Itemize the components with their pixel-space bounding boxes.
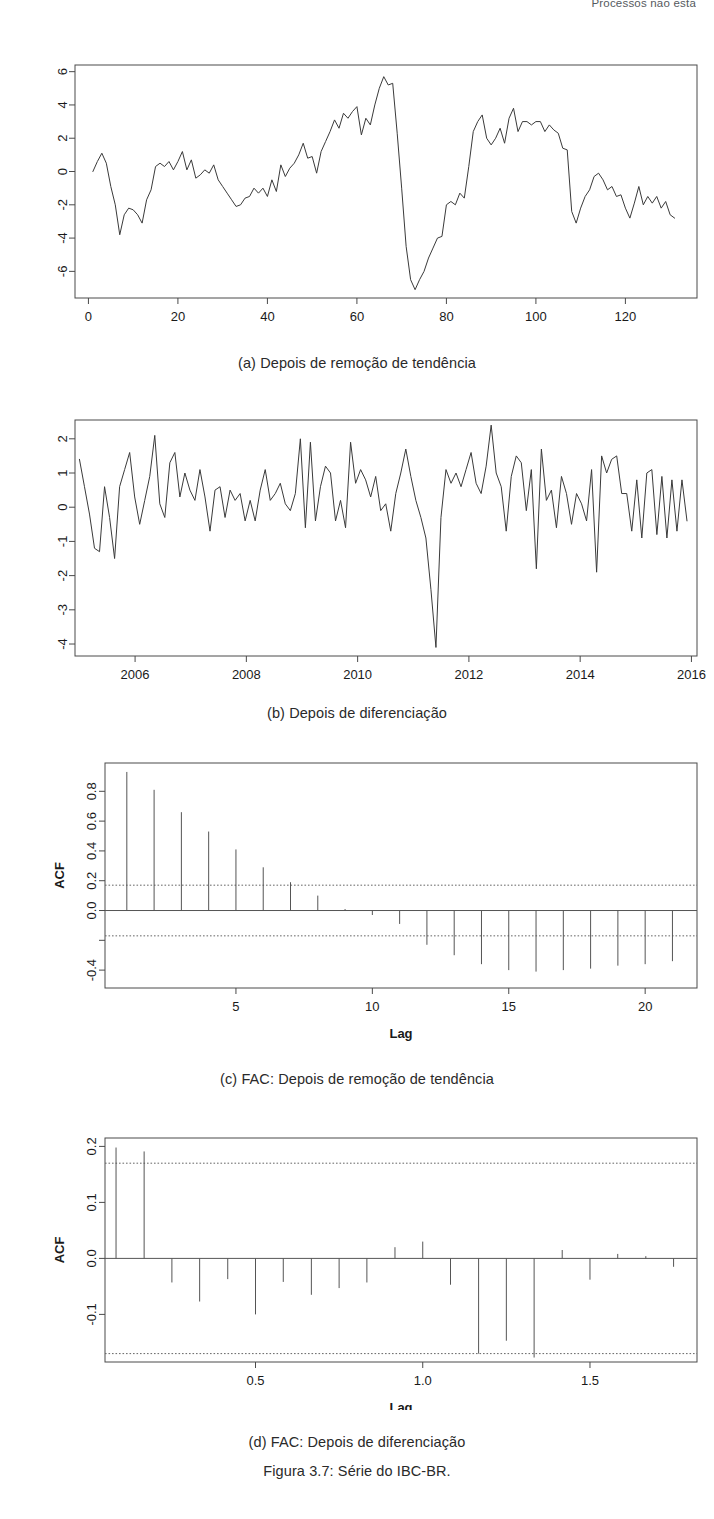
svg-text:80: 80 bbox=[439, 309, 453, 324]
svg-text:0.5: 0.5 bbox=[246, 1373, 264, 1388]
svg-text:0.1: 0.1 bbox=[85, 1193, 100, 1211]
panel-d-caption: (d) FAC: Depois de diferenciação bbox=[0, 1434, 714, 1450]
svg-text:2: 2 bbox=[56, 435, 71, 442]
svg-text:Lag: Lag bbox=[389, 1400, 412, 1410]
svg-text:0.8: 0.8 bbox=[85, 782, 100, 800]
svg-text:-4: -4 bbox=[56, 232, 71, 244]
svg-text:-2: -2 bbox=[56, 570, 71, 582]
figure-page: Processos não esta -6-4-2024602040608010… bbox=[0, 0, 714, 1519]
panel-c-acf-detrended: -0.40.00.20.40.60.85101520LagACF bbox=[0, 748, 714, 1060]
svg-text:0.0: 0.0 bbox=[85, 901, 100, 919]
svg-text:0.6: 0.6 bbox=[85, 812, 100, 830]
svg-text:2008: 2008 bbox=[232, 667, 261, 682]
svg-text:2016: 2016 bbox=[677, 667, 706, 682]
svg-text:0: 0 bbox=[56, 168, 71, 175]
panel-c-plot: -0.40.00.20.40.60.85101520LagACF bbox=[0, 748, 714, 1060]
panel-a-caption: (a) Depois de remoção de tendência bbox=[0, 355, 714, 371]
svg-text:4: 4 bbox=[56, 101, 71, 108]
svg-text:Lag: Lag bbox=[389, 1026, 412, 1041]
svg-text:-4: -4 bbox=[56, 638, 71, 650]
svg-text:-6: -6 bbox=[56, 266, 71, 278]
svg-text:1.0: 1.0 bbox=[414, 1373, 432, 1388]
svg-text:0.2: 0.2 bbox=[85, 1137, 100, 1155]
panel-c-caption: (c) FAC: Depois de remoção de tendência bbox=[0, 1071, 714, 1087]
svg-text:-1: -1 bbox=[56, 536, 71, 548]
svg-text:1.5: 1.5 bbox=[581, 1373, 599, 1388]
svg-text:20: 20 bbox=[171, 309, 185, 324]
svg-text:1: 1 bbox=[56, 469, 71, 476]
svg-text:40: 40 bbox=[260, 309, 274, 324]
svg-text:2010: 2010 bbox=[343, 667, 372, 682]
svg-text:0: 0 bbox=[85, 309, 92, 324]
svg-text:10: 10 bbox=[365, 999, 379, 1014]
svg-text:0.2: 0.2 bbox=[85, 872, 100, 890]
running-head: Processos não esta bbox=[591, 0, 696, 7]
panel-b-differenced-series: -4-3-2-1012200620082010201220142016 bbox=[0, 398, 714, 698]
svg-text:2012: 2012 bbox=[454, 667, 483, 682]
svg-text:-3: -3 bbox=[56, 604, 71, 616]
panel-d-acf-differenced: -0.10.00.10.20.51.01.5LagACF bbox=[0, 1110, 714, 1410]
svg-text:-0.1: -0.1 bbox=[85, 1303, 100, 1325]
figure-caption: Figura 3.7: Série do IBC-BR. bbox=[0, 1463, 714, 1479]
panel-d-plot: -0.10.00.10.20.51.01.5LagACF bbox=[0, 1110, 714, 1410]
panel-a-plot: -6-4-20246020406080100120 bbox=[0, 45, 714, 350]
svg-text:120: 120 bbox=[615, 309, 637, 324]
svg-text:ACF: ACF bbox=[52, 862, 67, 889]
panel-a-detrended-series: -6-4-20246020406080100120 bbox=[0, 45, 714, 350]
svg-text:15: 15 bbox=[502, 999, 516, 1014]
svg-text:2: 2 bbox=[56, 135, 71, 142]
panel-b-caption: (b) Depois de diferenciação bbox=[0, 705, 714, 721]
svg-text:0.0: 0.0 bbox=[85, 1249, 100, 1267]
svg-text:60: 60 bbox=[350, 309, 364, 324]
svg-text:100: 100 bbox=[525, 309, 547, 324]
svg-text:0: 0 bbox=[56, 504, 71, 511]
svg-text:20: 20 bbox=[638, 999, 652, 1014]
svg-text:0.4: 0.4 bbox=[85, 842, 100, 860]
svg-text:ACF: ACF bbox=[52, 1237, 67, 1264]
svg-text:-0.4: -0.4 bbox=[85, 959, 100, 981]
svg-text:2006: 2006 bbox=[121, 667, 150, 682]
svg-text:2014: 2014 bbox=[566, 667, 595, 682]
panel-b-plot: -4-3-2-1012200620082010201220142016 bbox=[0, 398, 714, 698]
svg-text:5: 5 bbox=[232, 999, 239, 1014]
svg-text:6: 6 bbox=[56, 68, 71, 75]
svg-text:-2: -2 bbox=[56, 199, 71, 211]
